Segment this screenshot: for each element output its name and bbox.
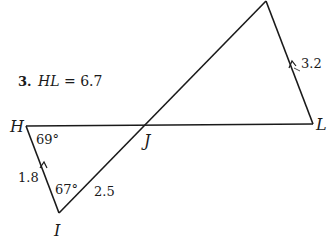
geometry-diagram: 3. HL = 6.7 H I J L 69° 67° 1.8 2.5 3.2	[0, 0, 330, 249]
segment-i-apex	[59, 1, 266, 213]
problem-number: 3.	[18, 74, 32, 89]
vertex-label-j: J	[141, 131, 152, 150]
label-leader-kl	[294, 68, 300, 71]
problem-given: HL = 6.7	[37, 73, 102, 89]
side-label-hi: 1.8	[18, 170, 39, 185]
vertex-label-i: I	[53, 221, 61, 240]
angle-label-i: 67°	[55, 182, 78, 197]
angle-label-h: 69°	[36, 132, 59, 147]
side-label-ij: 2.5	[94, 184, 115, 199]
vertex-label-l: L	[315, 115, 327, 134]
segment-hl	[26, 124, 313, 126]
side-label-kl: 3.2	[301, 56, 322, 71]
given-equation: = 6.7	[60, 73, 103, 89]
given-variable: HL	[37, 73, 60, 89]
vertex-label-h: H	[9, 117, 25, 136]
